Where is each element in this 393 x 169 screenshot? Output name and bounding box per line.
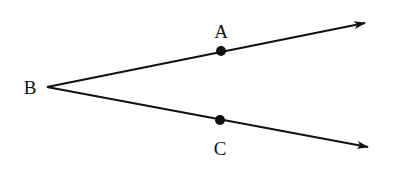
- point-label-c: C: [214, 138, 227, 159]
- point-c: [215, 115, 225, 125]
- ray-ba: [47, 23, 365, 87]
- vertex-label-b: B: [24, 77, 37, 98]
- point-a: [216, 46, 226, 56]
- angle-diagram: B A C: [0, 0, 393, 169]
- point-label-a: A: [214, 21, 228, 42]
- ray-bc: [47, 87, 368, 147]
